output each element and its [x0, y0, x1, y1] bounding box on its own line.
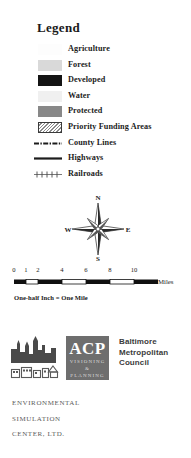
legend-item-highways: Highways — [0, 151, 191, 167]
line-swatch-railroads — [33, 167, 63, 182]
line-swatch-highways — [33, 151, 63, 166]
legend-label-county-lines: County Lines — [68, 136, 116, 150]
compass-label-east: E — [126, 226, 131, 234]
legend-label-priority-funding-areas: Priority Funding Areas — [68, 120, 151, 134]
bmc-name-line-1: Baltimore — [119, 337, 168, 348]
bmc-name-line-3: Council — [119, 358, 168, 369]
credits-block: ACP VISIONING & PLANNING Baltimore Metro… — [0, 334, 191, 458]
area-swatch-forest — [38, 60, 62, 71]
scale-tick-10: 10 — [131, 266, 138, 273]
scale-unit-label: Miles — [158, 278, 173, 285]
legend-label-water: Water — [68, 89, 90, 103]
legend-item-forest: Forest — [0, 58, 191, 74]
legend-label-protected: Protected — [68, 104, 102, 118]
compass-rose: N S E W — [63, 190, 133, 264]
legend-item-agriculture: Agriculture — [0, 42, 191, 58]
scale-tick-6: 6 — [84, 266, 87, 273]
legend-label-railroads: Railroads — [68, 167, 103, 181]
area-swatch-water — [38, 91, 62, 102]
scale-tick-1: 1 — [24, 266, 27, 273]
legend-label-agriculture: Agriculture — [68, 42, 110, 56]
acp-logo: ACP VISIONING & PLANNING — [66, 336, 109, 380]
legend-item-developed: Developed — [0, 73, 191, 89]
acp-logo-tagline-visioning: VISIONING — [66, 358, 109, 365]
legend-item-railroads: Railroads — [0, 167, 191, 183]
area-swatch-priority-funding-areas — [38, 122, 62, 133]
baltimore-metropolitan-council-name: Baltimore Metropolitan Council — [119, 337, 168, 369]
area-swatch-agriculture — [38, 44, 62, 55]
area-swatch-developed — [38, 75, 62, 86]
scale-equivalence-note: One-half Inch = One Mile — [14, 294, 88, 301]
compass-label-south: S — [96, 255, 100, 263]
esc-name-line-2: SIMULATION — [12, 412, 80, 428]
legend-label-highways: Highways — [68, 151, 103, 165]
city-skyline-icon — [9, 335, 61, 381]
scale-tick-labels: 01246810 — [0, 266, 191, 276]
bmc-name-line-2: Metropolitan — [119, 348, 168, 359]
acp-logo-initials: ACP — [66, 339, 109, 358]
line-swatch-county-lines — [33, 136, 63, 151]
scale-tick-4: 4 — [60, 266, 63, 273]
legend-item-priority-funding-areas: Priority Funding Areas — [0, 120, 191, 136]
compass-label-north: N — [95, 194, 100, 202]
legend-items-list: Agriculture Forest Developed Water Prote… — [0, 42, 191, 182]
legend-title: Legend — [37, 20, 80, 36]
scale-tick-8: 8 — [108, 266, 111, 273]
esc-name-line-3: CENTER, LTD. — [12, 427, 80, 443]
environmental-simulation-center-name: ENVIRONMENTAL SIMULATION CENTER, LTD. — [12, 396, 80, 443]
legend-item-county-lines: County Lines — [0, 136, 191, 152]
legend-label-developed: Developed — [68, 73, 105, 87]
compass-label-west: W — [65, 226, 72, 234]
acp-logo-tagline-planning: PLANNING — [66, 372, 109, 379]
area-swatch-protected — [38, 106, 62, 117]
legend-item-protected: Protected — [0, 104, 191, 120]
legend-label-forest: Forest — [68, 58, 91, 72]
acp-logo-tagline-ampersand: & — [66, 365, 109, 372]
scale-tick-0: 0 — [12, 266, 15, 273]
scale-tick-2: 2 — [36, 266, 39, 273]
esc-name-line-1: ENVIRONMENTAL — [12, 396, 80, 412]
legend-item-water: Water — [0, 89, 191, 105]
